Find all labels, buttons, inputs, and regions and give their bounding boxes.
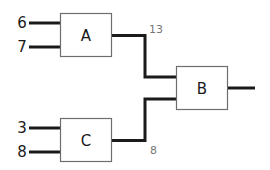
connection-value-a-b: 13	[149, 23, 163, 36]
wire-a-to-b	[111, 36, 177, 78]
block-c-label: C	[81, 132, 91, 150]
connection-value-c-b: 8	[150, 144, 157, 157]
input-label-a-2: 7	[17, 38, 27, 56]
block-b: B	[177, 67, 228, 110]
input-label-c-1: 3	[17, 119, 27, 137]
input-label-a-1: 6	[17, 14, 27, 32]
logic-diagram: A B C 6 7 3 8 13 8	[0, 0, 270, 170]
block-c: C	[61, 119, 112, 162]
wire-c-to-b	[111, 99, 177, 141]
block-a-label: A	[81, 27, 92, 45]
block-b-label: B	[197, 80, 207, 98]
input-label-c-2: 8	[17, 143, 27, 161]
block-a: A	[61, 14, 112, 57]
